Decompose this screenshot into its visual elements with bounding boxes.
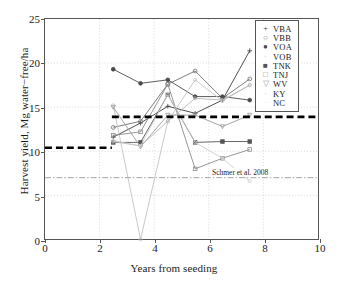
y-tick-label: 20 [29,57,40,69]
legend-marker-icon: · [260,90,271,98]
y-tick-label: 10 [29,146,40,158]
legend-marker-icon: ● [260,43,271,51]
series-line [113,80,249,240]
y-tick-label: 15 [29,102,40,114]
legend-marker-icon: ▽ [260,80,271,88]
legend-item-ky[interactable]: ·KY [260,89,292,98]
legend-marker-icon: · [260,99,271,107]
x-tick-mark [100,239,101,243]
schmer-annotation: Schmer et al. 2008 [210,168,270,177]
x-tick-mark [265,239,266,243]
y-tick-label: 0 [35,235,41,247]
legend-marker-icon: ■ [260,62,271,70]
x-tick-label: 6 [207,242,213,254]
chart-legend[interactable]: +VBA○VBB●VOA·VOB■TNK□TNJ▽WV·KY·NC [255,20,299,112]
x-tick-label: 8 [262,242,268,254]
legend-marker-icon: □ [260,71,271,79]
series-line [113,69,249,100]
x-axis-title: Years from seeding [0,262,348,274]
legend-item-wv[interactable]: ▽WV [260,80,292,89]
y-tick-label: 25 [29,13,40,25]
x-tick-label: 10 [315,242,326,254]
x-tick-mark [45,239,46,243]
x-tick-label: 0 [42,242,48,254]
x-tick-mark [320,239,321,243]
y-tick-label: 5 [35,190,41,202]
series-vob [112,78,252,241]
x-tick-mark [155,239,156,243]
legend-item-vba[interactable]: +VBA [260,24,292,33]
legend-item-tnj[interactable]: □TNJ [260,70,292,79]
legend-item-vob[interactable]: ·VOB [260,52,292,61]
legend-item-voa[interactable]: ●VOA [260,43,292,52]
legend-marker-icon: · [260,53,271,61]
x-tick-mark [210,239,211,243]
x-tick-label: 4 [152,242,158,254]
legend-marker-icon: ○ [260,34,271,42]
legend-marker-icon: + [260,25,271,33]
chart-figure: Harvest yield, Mg water−free/ha Years fr… [0,0,348,286]
legend-item-nc[interactable]: ·NC [260,98,292,107]
series-vbb [111,69,251,129]
legend-item-tnk[interactable]: ■TNK [260,61,292,70]
legend-item-vbb[interactable]: ○VBB [260,33,292,42]
y-axis-title: Harvest yield, Mg water−free/ha [18,11,30,231]
legend-item-label: NC [273,98,285,108]
x-tick-label: 2 [97,242,103,254]
